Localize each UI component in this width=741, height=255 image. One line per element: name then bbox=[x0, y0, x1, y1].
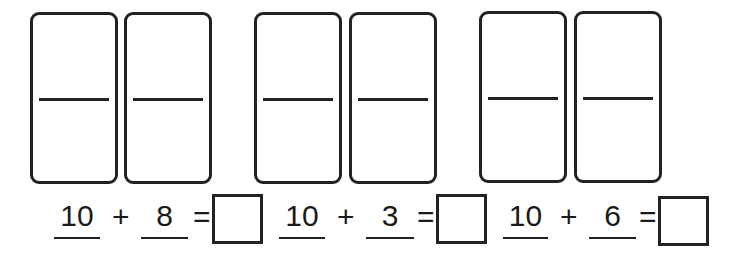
addend-value: 6 bbox=[589, 199, 636, 233]
answer-box-2[interactable] bbox=[436, 194, 487, 244]
domino-3a bbox=[479, 11, 567, 183]
equals-sign: = bbox=[193, 200, 211, 234]
underline bbox=[141, 237, 188, 239]
addend-value: 3 bbox=[366, 199, 414, 233]
plus-sign: + bbox=[560, 200, 578, 234]
addend-value: 10 bbox=[279, 199, 325, 233]
answer-box-3[interactable] bbox=[658, 196, 709, 246]
addend-3-first: 10 bbox=[503, 199, 548, 239]
addend-3-second: 6 bbox=[589, 199, 636, 239]
underline bbox=[589, 237, 636, 239]
addend-2-second: 3 bbox=[366, 199, 414, 239]
domino-2a bbox=[254, 12, 342, 184]
plus-sign: + bbox=[337, 200, 355, 234]
domino-divider bbox=[488, 97, 558, 100]
domino-divider bbox=[358, 98, 428, 101]
domino-divider bbox=[583, 97, 653, 100]
underline bbox=[279, 237, 325, 239]
domino-2b bbox=[349, 12, 437, 184]
underline bbox=[503, 237, 548, 239]
addend-1-second: 8 bbox=[141, 199, 188, 239]
domino-1a bbox=[30, 12, 118, 184]
plus-sign: + bbox=[112, 200, 130, 234]
addend-2-first: 10 bbox=[279, 199, 325, 239]
equals-sign: = bbox=[639, 200, 657, 234]
domino-3b bbox=[574, 11, 662, 183]
underline bbox=[366, 237, 414, 239]
underline bbox=[54, 237, 100, 239]
domino-divider bbox=[263, 98, 333, 101]
equals-sign: = bbox=[417, 200, 435, 234]
addend-value: 10 bbox=[54, 199, 100, 233]
domino-divider bbox=[39, 98, 109, 101]
domino-divider bbox=[133, 98, 203, 101]
addend-value: 8 bbox=[141, 199, 188, 233]
addend-1-first: 10 bbox=[54, 199, 100, 239]
domino-1b bbox=[124, 12, 212, 184]
addend-value: 10 bbox=[503, 199, 548, 233]
answer-box-1[interactable] bbox=[212, 194, 263, 244]
